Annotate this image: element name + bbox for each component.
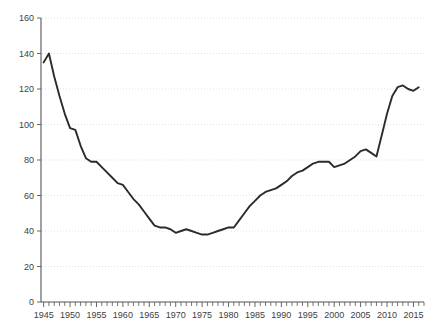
y-tick-label-160: 160 [19,13,34,23]
y-tick-label-100: 100 [19,120,34,130]
x-tick-label-2015: 2015 [403,310,423,320]
x-tick-label-1985: 1985 [245,310,265,320]
x-tick-label-1945: 1945 [34,310,54,320]
x-tick-label-2000: 2000 [324,310,344,320]
x-tick-label-1970: 1970 [166,310,186,320]
data-series [44,54,419,235]
x-tick-label-1955: 1955 [86,310,106,320]
y-tick-label-0: 0 [29,297,34,307]
x-tick-label-1995: 1995 [298,310,318,320]
x-tick-label-1960: 1960 [113,310,133,320]
x-tick-label-2010: 2010 [377,310,397,320]
y-tick-label-140: 140 [19,49,34,59]
x-tick-label-1965: 1965 [139,310,159,320]
line-chart: 020406080100120140160 194519501955196019… [0,0,432,335]
y-tick-label-120: 120 [19,84,34,94]
x-tick-label-1975: 1975 [192,310,212,320]
x-axis: 1945195019551960196519701975198019851990… [34,302,424,320]
y-tick-label-60: 60 [24,191,34,201]
y-tick-label-80: 80 [24,155,34,165]
x-tick-label-1950: 1950 [60,310,80,320]
x-tick-label-2005: 2005 [351,310,371,320]
series-line-value [44,54,419,235]
x-tick-label-1990: 1990 [271,310,291,320]
y-axis: 020406080100120140160 [19,13,41,307]
gridlines [42,18,424,267]
y-tick-label-40: 40 [24,226,34,236]
x-tick-label-1980: 1980 [219,310,239,320]
y-tick-label-20: 20 [24,262,34,272]
chart-canvas: 020406080100120140160 194519501955196019… [0,0,432,335]
